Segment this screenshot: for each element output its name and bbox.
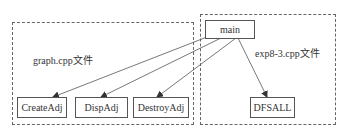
- edge-main-destroyadj: [157, 38, 236, 97]
- node-createadj: CreateAdj: [17, 97, 67, 118]
- node-dispadj: DispAdj: [75, 97, 128, 118]
- edge-main-createadj: [53, 37, 207, 97]
- node-destroyadj: DestroyAdj: [133, 97, 189, 118]
- node-main: main: [205, 20, 255, 39]
- edge-main-dfsall: [238, 38, 267, 97]
- node-dfsall: DFSALL: [250, 97, 295, 118]
- edge-main-dispadj: [101, 38, 221, 97]
- call-diagram: graph.cpp文件 exp8-3.cpp文件 main CreateAdj …: [0, 0, 344, 137]
